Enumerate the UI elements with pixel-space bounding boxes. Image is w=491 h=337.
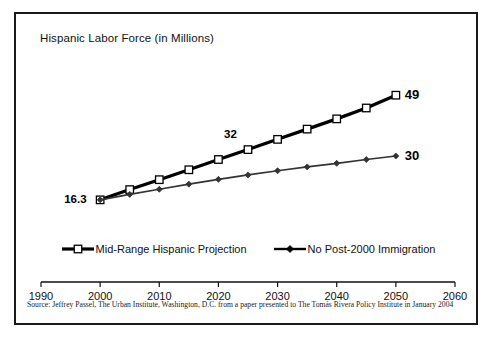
legend-item-no-post-2000-immigration[interactable]: No Post-2000 Immigration bbox=[273, 242, 436, 256]
data-point-label: 49 bbox=[405, 87, 419, 102]
data-point-marker-square bbox=[215, 156, 223, 164]
data-point-marker-square bbox=[333, 115, 341, 123]
legend-item-mid-range-hispanic-projection[interactable]: Mid-Range Hispanic Projection bbox=[61, 242, 247, 256]
data-point-marker-square bbox=[303, 125, 311, 132]
data-point-label: 16.3 bbox=[64, 193, 86, 205]
series-mid-range-hispanic-projection bbox=[96, 91, 399, 203]
chart-svg bbox=[16, 14, 480, 327]
data-point-marker-diamond bbox=[334, 160, 340, 166]
data-point-marker-square bbox=[74, 245, 82, 253]
figure-frame: Hispanic Labor Force (in Millions) 19902… bbox=[14, 12, 478, 325]
data-point-marker-square bbox=[185, 166, 193, 174]
data-point-marker-square bbox=[392, 91, 400, 99]
data-point-marker-diamond bbox=[275, 168, 281, 174]
data-point-marker-square bbox=[274, 136, 282, 144]
data-point-label: 30 bbox=[405, 148, 419, 163]
data-point-marker-diamond bbox=[215, 176, 221, 182]
series-group bbox=[96, 91, 399, 203]
data-point-marker-diamond bbox=[393, 153, 399, 159]
series-no-post-2000-immigration bbox=[97, 153, 399, 203]
data-point-marker-diamond bbox=[186, 181, 192, 187]
chart-legend: Mid-Range Hispanic ProjectionNo Post-200… bbox=[16, 242, 480, 256]
data-point-label: 32 bbox=[224, 128, 237, 140]
data-point-marker-square bbox=[156, 176, 164, 184]
data-point-marker-diamond bbox=[286, 246, 293, 253]
data-point-marker-diamond bbox=[304, 164, 310, 170]
legend-item-label: Mid-Range Hispanic Projection bbox=[96, 243, 247, 255]
data-point-marker-diamond bbox=[245, 172, 251, 178]
plot-area: 19902000201020202030204020502060 16.3324… bbox=[16, 14, 480, 327]
legend-item-label: No Post-2000 Immigration bbox=[308, 243, 436, 255]
data-point-marker-diamond bbox=[363, 157, 369, 163]
data-point-marker-square bbox=[244, 146, 252, 154]
legend-diamond-marker-icon bbox=[273, 242, 307, 256]
source-note: Source: Jeffrey Passel, The Urban Instit… bbox=[27, 300, 475, 309]
data-point-marker-diamond bbox=[156, 186, 162, 192]
data-point-marker-square bbox=[363, 104, 371, 112]
x-axis bbox=[41, 282, 455, 287]
legend-square-marker-icon bbox=[61, 242, 95, 256]
